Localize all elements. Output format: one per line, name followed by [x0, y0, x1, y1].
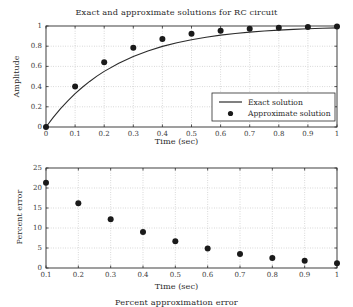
x-tick-label: 0.5 [162, 271, 188, 279]
x-tick-label: 0.4 [149, 130, 175, 138]
x-tick-label: 1 [324, 271, 350, 279]
x-tick-label: 0.8 [266, 130, 292, 138]
x-tick-label: 0.8 [259, 271, 285, 279]
y-tick-label: 0 [18, 123, 42, 131]
data-point [140, 229, 146, 235]
data-point [172, 238, 178, 244]
data-point [237, 251, 243, 257]
data-point [269, 255, 275, 261]
x-tick-label: 1 [324, 130, 350, 138]
y-tick-label: 0.6 [18, 62, 42, 70]
x-tick-label: 0.2 [65, 271, 91, 279]
x-tick-label: 0.3 [120, 130, 146, 138]
x-tick-label: 0.5 [179, 130, 205, 138]
data-point [302, 258, 308, 264]
x-axis-label-bottom: Time (sec) [0, 281, 353, 291]
y-tick-label: 0 [18, 264, 42, 272]
data-point [75, 200, 81, 206]
data-point [43, 180, 49, 186]
data-point [108, 216, 114, 222]
y-tick-label: 10 [18, 224, 42, 232]
x-tick-label: 0.9 [295, 130, 321, 138]
x-tick-label: 0.7 [237, 130, 263, 138]
y-tick-label: 1 [18, 22, 42, 30]
y-tick-label: 0.2 [18, 103, 42, 111]
x-tick-label: 0.2 [91, 130, 117, 138]
x-tick-label: 0.6 [195, 271, 221, 279]
x-tick-label: 0.3 [98, 271, 124, 279]
data-point [334, 260, 340, 266]
x-tick-label: 0.1 [62, 130, 88, 138]
x-tick-label: 0 [33, 130, 59, 138]
x-tick-label: 0.9 [292, 271, 318, 279]
y-axis-label-bottom: Percent error [15, 195, 24, 245]
y-tick-label: 15 [18, 204, 42, 212]
y-tick-label: 0.4 [18, 83, 42, 91]
y-tick-label: 5 [18, 244, 42, 252]
y-tick-label: 20 [18, 184, 42, 192]
y-tick-label: 0.8 [18, 42, 42, 50]
data-point [205, 245, 211, 251]
x-tick-label: 0.4 [130, 271, 156, 279]
x-tick-label: 0.1 [33, 271, 59, 279]
x-tick-label: 0.6 [208, 130, 234, 138]
axes-frame [46, 168, 337, 268]
y-tick-label: 25 [18, 164, 42, 172]
x-tick-label: 0.7 [227, 271, 253, 279]
